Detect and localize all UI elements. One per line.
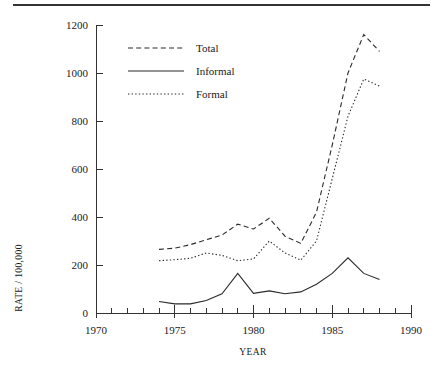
data-series-group	[159, 35, 380, 304]
x-tick-label: 1990	[400, 324, 423, 336]
figure-container: 020040060080010001200 197019751980198519…	[0, 0, 442, 378]
y-axis: 020040060080010001200	[66, 19, 103, 319]
y-tick-label: 800	[72, 115, 89, 127]
x-tick-label: 1970	[85, 324, 108, 336]
legend-label-total: Total	[196, 42, 218, 54]
legend-label-formal: Formal	[196, 88, 228, 100]
y-axis-title: RATE / 100,000	[14, 244, 24, 312]
y-tick-label: 1200	[66, 19, 89, 31]
x-axis-tick-labels: 19701975198019851990	[85, 324, 423, 336]
x-axis: 19701975198019851990	[85, 305, 423, 336]
y-axis-tick-labels: 020040060080010001200	[66, 19, 89, 319]
chart-legend: TotalInformalFormal	[128, 42, 234, 100]
series-line-informal	[159, 258, 380, 304]
y-tick-label: 200	[72, 259, 89, 271]
x-axis-title: YEAR	[239, 347, 267, 357]
y-tick-label: 1000	[66, 67, 89, 79]
y-tick-label: 600	[72, 163, 89, 175]
legend-label-informal: Informal	[196, 65, 234, 77]
series-line-total	[159, 35, 380, 250]
series-line-formal	[159, 79, 380, 261]
x-tick-label: 1980	[243, 324, 266, 336]
x-tick-label: 1975	[164, 324, 187, 336]
y-tick-label: 0	[83, 307, 89, 319]
chart-plot: 020040060080010001200 197019751980198519…	[0, 0, 442, 378]
x-tick-label: 1985	[321, 324, 344, 336]
y-tick-label: 400	[72, 211, 89, 223]
y-axis-ticks	[96, 25, 103, 313]
